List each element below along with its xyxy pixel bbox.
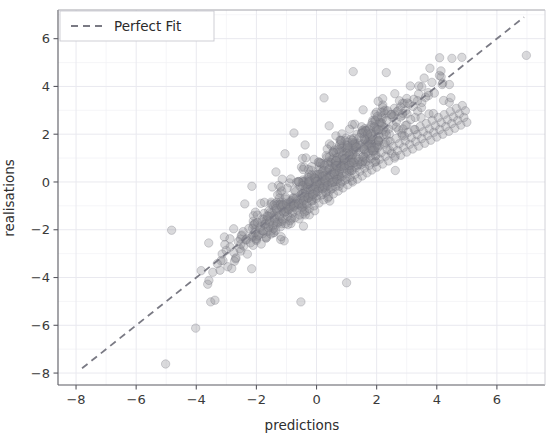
scatter-point xyxy=(447,94,455,102)
scatter-point xyxy=(277,183,285,191)
scatter-point xyxy=(325,122,333,130)
scatter-point xyxy=(445,80,453,88)
y-tick-label: −8 xyxy=(31,366,50,381)
plot-canvas: −8−6−4−20246−8−6−4−20246 predictions rea… xyxy=(0,0,558,436)
scatter-point xyxy=(232,254,240,262)
x-tick-label: 6 xyxy=(493,392,501,407)
scatter-point xyxy=(382,68,390,76)
scatter-point xyxy=(461,107,469,115)
scatter-point xyxy=(260,198,268,206)
scatter-point xyxy=(290,129,298,137)
y-tick-label: −6 xyxy=(31,318,50,333)
scatter-point xyxy=(320,94,328,102)
scatter-point xyxy=(458,53,466,61)
scatter-point xyxy=(374,97,382,105)
scatter-point xyxy=(522,51,530,59)
scatter-point xyxy=(278,175,286,183)
scatter-point xyxy=(209,268,217,276)
x-tick-label: 4 xyxy=(433,392,441,407)
scatter-point xyxy=(407,115,415,123)
y-tick-label: 0 xyxy=(42,175,50,190)
scatter-point xyxy=(323,145,331,153)
scatter-point xyxy=(435,54,443,62)
scatter-point xyxy=(337,136,345,144)
scatter-point xyxy=(448,54,456,62)
scatter-point xyxy=(228,264,236,272)
scatter-plot-figure: −8−6−4−20246−8−6−4−20246 predictions rea… xyxy=(0,0,558,436)
scatter-point xyxy=(426,64,434,72)
scatter-point xyxy=(248,182,256,190)
scatter-point xyxy=(345,125,353,133)
scatter-point xyxy=(373,112,381,120)
y-tick-label: −4 xyxy=(31,270,50,285)
scatter-point xyxy=(226,235,234,243)
scatter-point xyxy=(300,163,308,171)
scatter-point xyxy=(241,200,249,208)
scatter-point xyxy=(342,279,350,287)
scatter-point xyxy=(243,250,251,258)
scatter-point xyxy=(359,106,367,114)
y-tick-label: 4 xyxy=(42,79,50,94)
scatter-point xyxy=(211,296,219,304)
scatter-point xyxy=(302,154,310,162)
x-axis-title: predictions xyxy=(265,417,340,433)
scatter-point xyxy=(463,118,471,126)
scatter-point xyxy=(205,239,213,247)
scatter-point xyxy=(349,67,357,75)
scatter-point xyxy=(167,226,175,234)
scatter-point xyxy=(268,183,276,191)
x-tick-label: −2 xyxy=(247,392,266,407)
y-tick-label: −2 xyxy=(31,222,50,237)
scatter-point xyxy=(301,141,309,149)
legend[interactable]: Perfect Fit xyxy=(60,11,214,41)
scatter-point xyxy=(387,110,395,118)
scatter-point xyxy=(391,166,399,174)
scatter-point xyxy=(247,265,255,273)
y-axis-title: realisations xyxy=(1,159,17,237)
x-tick-label: 2 xyxy=(373,392,381,407)
scatter-point xyxy=(437,67,445,75)
x-tick-label: −6 xyxy=(127,392,146,407)
x-tick-label: −4 xyxy=(187,392,206,407)
x-tick-label: 0 xyxy=(312,392,320,407)
scatter-point xyxy=(406,82,414,90)
y-tick-label: 6 xyxy=(42,31,50,46)
scatter-point xyxy=(299,222,307,230)
legend-label-perfect-fit: Perfect Fit xyxy=(114,18,181,34)
scatter-point xyxy=(297,298,305,306)
scatter-point xyxy=(191,324,199,332)
x-tick-label: −8 xyxy=(66,392,85,407)
scatter-point xyxy=(428,78,436,86)
scatter-point xyxy=(272,168,280,176)
scatter-point xyxy=(161,360,169,368)
scatter-point xyxy=(281,150,289,158)
scatter-point xyxy=(205,276,213,284)
scatter-point xyxy=(420,74,428,82)
scatter-point xyxy=(395,97,403,105)
scatter-point xyxy=(229,225,237,233)
scatter-point xyxy=(314,158,322,166)
y-tick-label: 2 xyxy=(42,127,50,142)
